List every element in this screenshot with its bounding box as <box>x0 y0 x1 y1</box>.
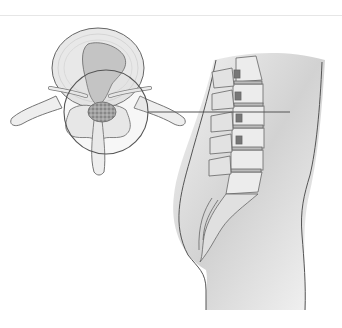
transverse-process-left <box>11 96 62 126</box>
magnification-circle <box>64 70 148 154</box>
axial-vertebra-view <box>11 28 186 175</box>
torso-sagittal-view <box>173 53 325 310</box>
spine-illustration <box>0 0 342 328</box>
